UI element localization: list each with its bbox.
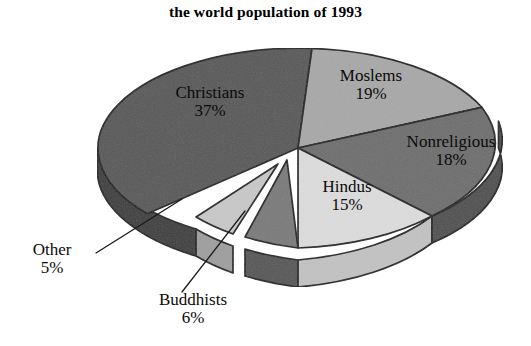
slice-label-nonreligious: Nonreligious 18% bbox=[374, 133, 528, 170]
slice-label-other: Other 5% bbox=[12, 241, 92, 278]
slice-label-nonreligious-percent: 18% bbox=[374, 151, 528, 169]
slice-label-buddhists-name: Buddhists bbox=[125, 291, 261, 309]
pie-chart-graphic bbox=[0, 0, 531, 346]
slice-label-moslems-name: Moslems bbox=[318, 67, 424, 85]
slice-label-christians: Christians 37% bbox=[150, 84, 270, 121]
slice-label-moslems: Moslems 19% bbox=[318, 67, 424, 104]
slice-label-hindus: Hindus 15% bbox=[297, 178, 397, 215]
slice-label-buddhists-percent: 6% bbox=[125, 309, 261, 327]
slice-label-hindus-percent: 15% bbox=[297, 196, 397, 214]
slice-label-other-name: Other bbox=[12, 241, 92, 259]
slice-label-buddhists: Buddhists 6% bbox=[125, 291, 261, 328]
slice-side-buddhists bbox=[245, 249, 298, 287]
slice-label-christians-percent: 37% bbox=[150, 102, 270, 120]
slice-label-christians-name: Christians bbox=[150, 84, 270, 102]
slice-label-other-percent: 5% bbox=[12, 259, 92, 277]
slice-label-nonreligious-name: Nonreligious bbox=[374, 133, 528, 151]
slice-label-hindus-name: Hindus bbox=[297, 178, 397, 196]
pie-chart-figure: the world population of 1993 bbox=[0, 0, 531, 346]
slice-label-moslems-percent: 19% bbox=[318, 85, 424, 103]
